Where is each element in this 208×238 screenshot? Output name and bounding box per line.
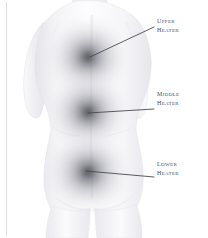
callout-lower-line2: Heater	[157, 168, 179, 177]
torso-illustration	[0, 0, 208, 238]
callout-upper-line2: Heater	[157, 25, 179, 34]
callout-middle-line2: Heater	[157, 98, 179, 107]
heater-zones-diagram: Upper Heater Middle Heater Lower Heater	[0, 0, 208, 238]
callout-label-lower-heater: Lower Heater	[157, 159, 179, 178]
callout-label-middle-heater: Middle Heater	[157, 89, 179, 108]
heat-zone-lower	[41, 125, 135, 219]
callout-label-upper-heater: Upper Heater	[157, 16, 179, 35]
